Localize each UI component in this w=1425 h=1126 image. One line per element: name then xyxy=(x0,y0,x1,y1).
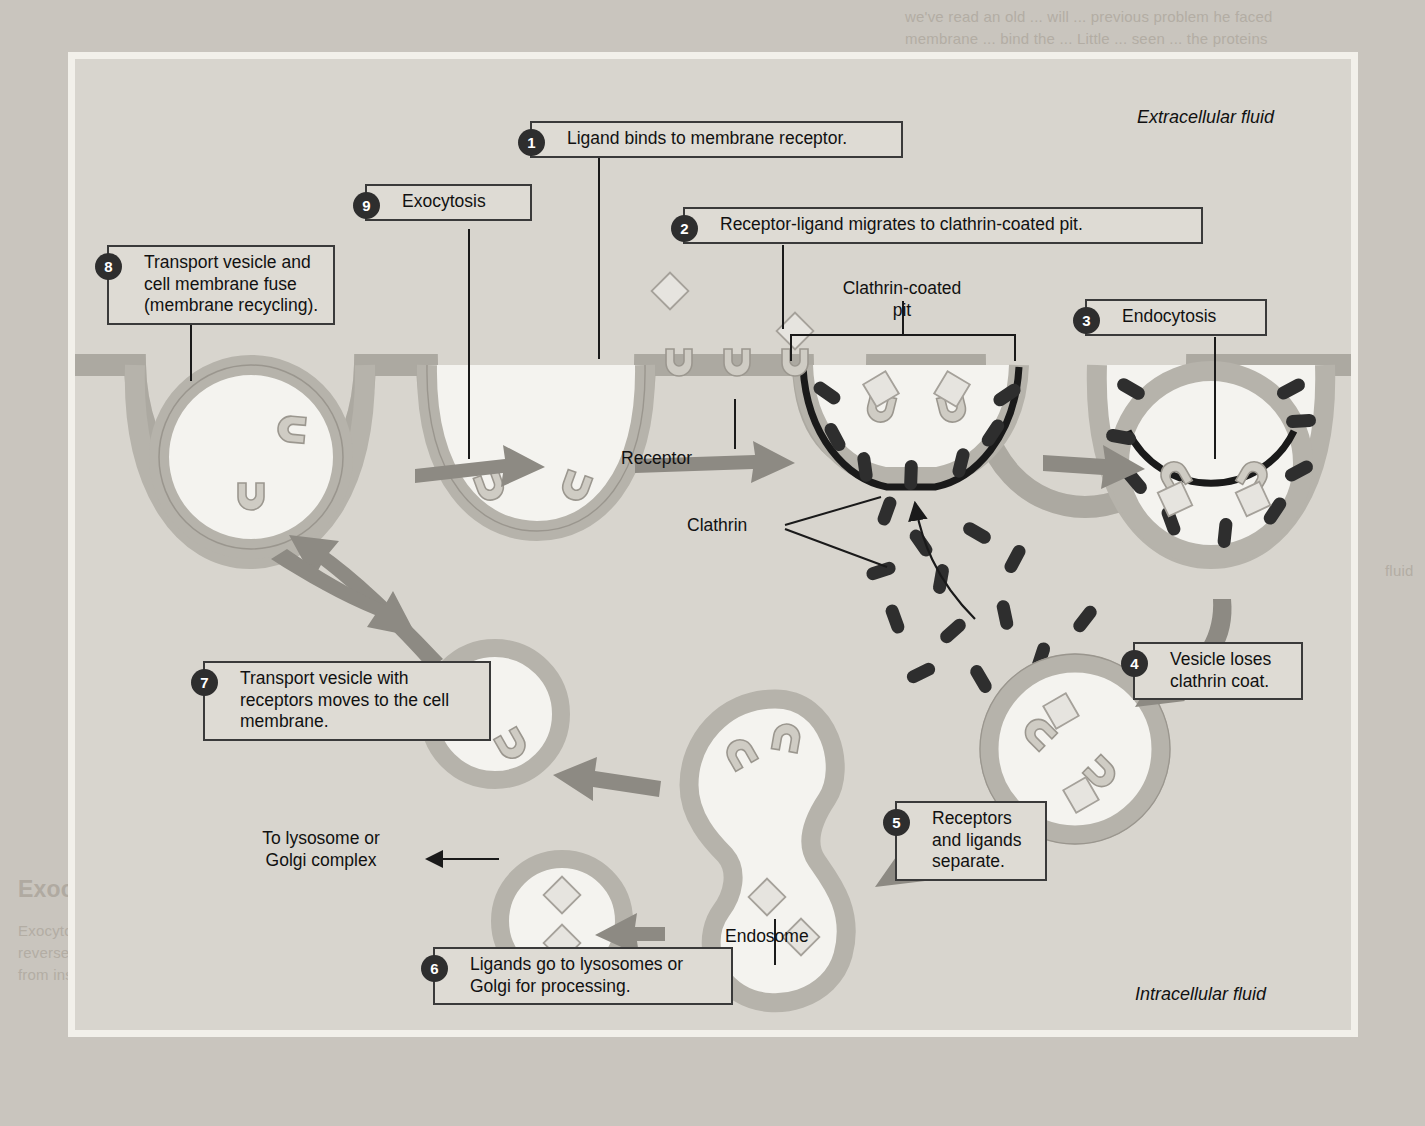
step-2-text: Receptor-ligand migrates to clathrin-coa… xyxy=(694,214,1192,236)
step-7-badge: 7 xyxy=(191,669,218,696)
step-1-text: Ligand binds to membrane receptor. xyxy=(541,128,892,150)
label-clathrin-coated-pit: Clathrin-coated pit xyxy=(817,277,987,321)
step-4-text: Vesicle loses clathrin coat. xyxy=(1144,649,1292,692)
step-1-badge: 1 xyxy=(518,129,545,156)
endocytosis-figure: Extracellular fluid Intracellular fluid … xyxy=(68,52,1358,1037)
step-8-callout[interactable]: 8 Transport vesicle and cell membrane fu… xyxy=(107,245,335,325)
membrane-fusion-pocket xyxy=(135,365,365,559)
clathrin-recycle-arrow xyxy=(915,503,975,619)
step-2-callout[interactable]: 2 Receptor-ligand migrates to clathrin-c… xyxy=(683,207,1203,244)
page-bleed-top-right: we've read an old ... will ... previous … xyxy=(905,6,1273,50)
step-6-text: Ligands go to lysosomes or Golgi for pro… xyxy=(444,954,722,997)
step-7-callout[interactable]: 7 Transport vesicle with receptors moves… xyxy=(203,661,491,741)
free-ligand xyxy=(652,273,689,310)
label-endosome: Endosome xyxy=(725,925,809,947)
figure-artwork xyxy=(75,59,1351,1030)
label-extracellular-fluid: Extracellular fluid xyxy=(1137,107,1274,128)
membrane-exocytosis-pit xyxy=(427,365,645,531)
step-9-callout[interactable]: 9 Exocytosis xyxy=(365,184,532,221)
label-intracellular-fluid: Intracellular fluid xyxy=(1135,984,1266,1005)
step-9-text: Exocytosis xyxy=(376,191,521,213)
page-bleed-right: fluid xyxy=(1385,560,1414,582)
step-5-badge: 5 xyxy=(883,809,910,836)
step-8-text: Transport vesicle and cell membrane fuse… xyxy=(118,252,324,317)
label-to-lysosome-golgi: To lysosome or Golgi complex xyxy=(215,827,427,871)
step-6-callout[interactable]: 6 Ligands go to lysosomes or Golgi for p… xyxy=(433,947,733,1005)
step-3-badge: 3 xyxy=(1073,307,1100,334)
step-6-badge: 6 xyxy=(421,955,448,982)
step-8-badge: 8 xyxy=(95,253,122,280)
textbook-page: we've read an old ... will ... previous … xyxy=(0,0,1425,1126)
step-4-badge: 4 xyxy=(1121,650,1148,677)
step-2-badge: 2 xyxy=(671,215,698,242)
step-1-callout[interactable]: 1 Ligand binds to membrane receptor. xyxy=(530,121,903,158)
label-receptor: Receptor xyxy=(621,447,692,469)
step-9-badge: 9 xyxy=(353,192,380,219)
step-3-text: Endocytosis xyxy=(1096,306,1256,328)
step-3-callout[interactable]: 3 Endocytosis xyxy=(1085,299,1267,336)
step-7-text: Transport vesicle with receptors moves t… xyxy=(214,668,480,733)
step-5-text: Receptors and ligands separate. xyxy=(906,808,1036,873)
step-4-callout[interactable]: 4 Vesicle loses clathrin coat. xyxy=(1133,642,1303,700)
step-5-callout[interactable]: 5 Receptors and ligands separate. xyxy=(895,801,1047,881)
label-clathrin: Clathrin xyxy=(687,514,747,536)
